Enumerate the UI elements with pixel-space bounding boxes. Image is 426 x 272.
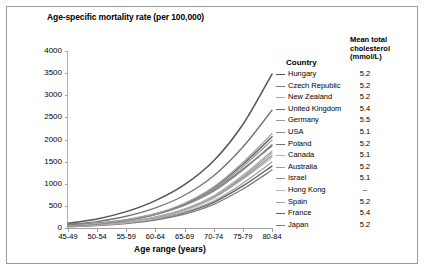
legend-item[interactable]: Israel5.1 [276,173,414,185]
legend-cholesterol-value: 5.2 [354,220,376,230]
x-axis-title: Age range (years) [68,244,272,254]
plot-area [68,51,272,228]
legend-cholesterol-value: 5.2 [354,139,376,149]
legend-item[interactable]: USA5.1 [276,127,414,139]
legend-rows: Hungary5.2Czech Republic5.2New Zealand5.… [276,69,414,231]
legend-item[interactable]: United Kingdom5.4 [276,104,414,116]
legend-line-icon [276,109,285,110]
legend-cholesterol-value: 5.4 [354,208,376,218]
legend-cholesterol-value: 5.5 [354,115,376,125]
legend-cholesterol-value: – [354,185,376,195]
legend-line-icon [276,167,285,168]
legend-cholesterol-value: 5.4 [354,104,376,114]
legend: Country Mean total cholesterol (mmol/L) … [276,36,414,231]
legend-cholesterol-value: 5.2 [354,69,376,79]
legend-item[interactable]: New Zealand5.2 [276,92,414,104]
x-tick-mark [243,229,244,232]
legend-country-label: United Kingdom [288,104,341,114]
legend-item[interactable]: Spain5.2 [276,197,414,209]
y-tick-label: 0 [22,224,62,232]
y-axis-title: Age-specific mortality rate (per 100,000… [47,12,227,23]
legend-country-label: Israel [288,173,306,183]
legend-cholesterol-value: 5.1 [354,150,376,160]
legend-cholesterol-value: 5.1 [354,127,376,137]
legend-country-label: Canada [288,150,314,160]
legend-line-icon [276,213,285,214]
legend-line-icon [276,132,285,133]
legend-line-icon [276,190,285,191]
legend-item[interactable]: Australia5.2 [276,162,414,174]
legend-item[interactable]: Czech Republic5.2 [276,81,414,93]
legend-item[interactable]: Canada5.1 [276,150,414,162]
legend-line-icon [276,155,285,156]
legend-country-label: France [288,208,311,218]
legend-country-label: Hong Kong [288,185,326,195]
figure-container: Age-specific mortality rate (per 100,000… [0,0,426,272]
legend-item[interactable]: Germany5.5 [276,115,414,127]
legend-line-icon [276,74,285,75]
legend-line-icon [276,120,285,121]
y-tick-label: 500 [22,202,62,210]
legend-country-label: Germany [288,115,319,125]
y-tick-label: 3000 [22,91,62,99]
x-tick-mark [68,229,69,232]
x-tick-mark [214,229,215,232]
legend-item[interactable]: Poland5.2 [276,139,414,151]
legend-cholesterol-value: 5.2 [354,92,376,102]
legend-header-country: Country [286,58,317,67]
y-tick-label: 2000 [22,136,62,144]
y-tick-label: 1000 [22,180,62,188]
legend-country-label: Spain [288,197,307,207]
x-tick-mark [155,229,156,232]
legend-line-icon [276,225,285,226]
mortality-line-chart [68,51,272,228]
legend-header-cholesterol: Mean total cholesterol (mmol/L) [350,36,414,62]
x-tick-mark [185,229,186,232]
legend-line-icon [276,144,285,145]
y-tick-label: 1500 [22,158,62,166]
legend-line-icon [276,97,285,98]
y-tick-label: 4000 [22,47,62,55]
legend-cholesterol-value: 5.2 [354,197,376,207]
legend-country-label: Australia [288,162,317,172]
legend-country-label: Poland [288,139,311,149]
legend-country-label: Czech Republic [288,81,341,91]
legend-item[interactable]: Hong Kong– [276,185,414,197]
legend-line-icon [276,178,285,179]
x-tick-mark [272,229,273,232]
legend-cholesterol-value: 5.2 [354,81,376,91]
legend-country-label: New Zealand [288,92,332,102]
x-tick-mark [97,229,98,232]
legend-country-label: Hungary [288,69,316,79]
y-tick-label: 3500 [22,69,62,77]
legend-country-label: USA [288,127,303,137]
legend-line-icon [276,202,285,203]
legend-item[interactable]: Hungary5.2 [276,69,414,81]
series-line [68,137,272,226]
legend-line-icon [276,86,285,87]
legend-item[interactable]: France5.4 [276,208,414,220]
x-tick-label: 80-84 [255,232,289,241]
legend-cholesterol-value: 5.1 [354,173,376,183]
x-tick-mark [126,229,127,232]
legend-country-label: Japan [288,220,308,230]
y-tick-label: 2500 [22,113,62,121]
legend-item[interactable]: Japan5.2 [276,220,414,232]
legend-header: Country Mean total cholesterol (mmol/L) [276,36,414,69]
legend-cholesterol-value: 5.2 [354,162,376,172]
